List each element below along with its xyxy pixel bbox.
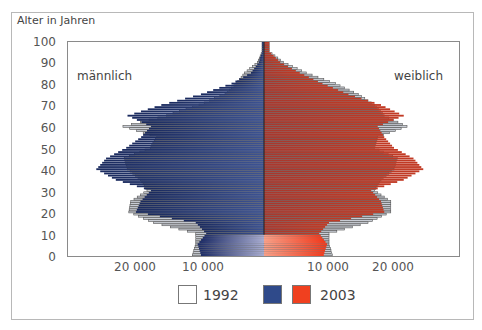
y-axis-title: Alter in Jahren bbox=[17, 14, 95, 27]
y-tick: 90 bbox=[16, 56, 56, 70]
x-tick: 20 000 bbox=[363, 260, 423, 274]
y-tick: 60 bbox=[16, 121, 56, 135]
y-tick: 80 bbox=[16, 78, 56, 92]
y-tick: 30 bbox=[16, 186, 56, 200]
x-tick: 20 000 bbox=[105, 260, 165, 274]
y-tick: 40 bbox=[16, 164, 56, 178]
y-tick: 0 bbox=[16, 250, 56, 264]
legend-label-1992: 1992 bbox=[203, 287, 239, 303]
female-label: weiblich bbox=[394, 69, 443, 83]
male-label: männlich bbox=[77, 69, 132, 83]
y-tick: 20 bbox=[16, 207, 56, 221]
legend-swatch-2003-male bbox=[263, 285, 282, 304]
y-tick: 70 bbox=[16, 99, 56, 113]
legend-swatch-1992 bbox=[178, 285, 197, 304]
legend-swatch-2003-female bbox=[292, 285, 311, 304]
y-tick: 50 bbox=[16, 143, 56, 157]
y-tick: 10 bbox=[16, 229, 56, 243]
y-tick: 100 bbox=[16, 35, 56, 49]
x-tick: 10 000 bbox=[173, 260, 233, 274]
x-tick: 10 000 bbox=[298, 260, 358, 274]
legend-label-2003: 2003 bbox=[320, 287, 356, 303]
